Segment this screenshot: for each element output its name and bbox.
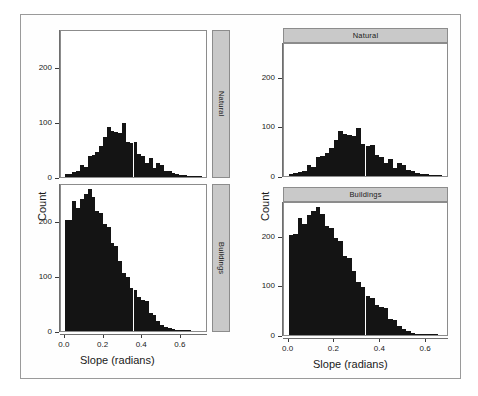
histogram-bar [438,175,443,176]
left-natural-histogram-bars [61,31,206,177]
y-tick-label: 200 [253,73,275,82]
y-tick-label: 100 [30,272,52,281]
left-x-axis-title: Slope (radians) [80,354,155,366]
x-tick-label: 0.6 [411,344,439,353]
y-tick-label: 100 [253,122,275,131]
left-strip-natural: Natural [212,30,230,178]
left-buildings-histogram-bars [61,185,206,331]
y-axis-line [282,202,283,336]
right-y-axis-title: Count [259,192,271,221]
x-tick-label: 0.0 [50,340,78,349]
y-tick-label: 0 [30,173,52,182]
right-faceted-histogram-figure: Count Natural Buildings 0100200 0100200 … [245,16,460,376]
x-tick-label: 0.6 [166,340,194,349]
right-strip-buildings: Buildings [283,187,448,202]
x-tick-label: 0.4 [127,340,155,349]
right-x-axis-title: Slope (radians) [313,358,388,370]
y-tick-mark [278,336,282,337]
y-tick-label: 0 [253,331,275,340]
left-strip-buildings: Buildings [212,184,230,332]
left-panel-buildings [60,184,207,332]
y-tick-label: 0 [30,327,52,336]
y-tick-label: 100 [30,118,52,127]
histogram-bar [187,330,191,331]
left-panel-natural [60,30,207,178]
y-tick-mark [278,177,282,178]
x-axis-line [283,338,448,339]
y-tick-label: 200 [30,63,52,72]
x-tick-label: 0.0 [274,344,302,353]
y-tick-label: 0 [253,172,275,181]
histogram-bar [198,176,202,177]
right-panel-buildings [283,202,448,336]
y-tick-label: 200 [30,217,52,226]
y-tick-label: 100 [253,281,275,290]
screenshot-stage: Count Natural Buildings 0100200 0100200 … [0,0,478,396]
x-tick-label: 0.2 [319,344,347,353]
right-natural-histogram-bars [284,44,447,176]
left-faceted-histogram-figure: Count Natural Buildings 0100200 0100200 … [22,16,237,376]
y-tick-mark [55,178,59,179]
x-tick-label: 0.4 [365,344,393,353]
x-axis-line [60,334,207,335]
y-axis-line [282,43,283,177]
y-tick-label: 200 [253,232,275,241]
histogram-bar [433,334,438,335]
y-tick-mark [55,332,59,333]
right-strip-natural: Natural [283,28,448,43]
y-axis-line [59,184,60,332]
right-buildings-histogram-bars [284,203,447,335]
x-tick-label: 0.2 [89,340,117,349]
y-axis-line [59,30,60,178]
right-panel-natural [283,43,448,177]
